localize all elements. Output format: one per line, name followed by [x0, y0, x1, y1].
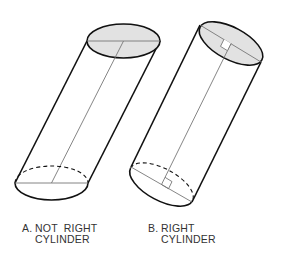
label-b-line2: CYLINDER — [148, 234, 216, 245]
cylinder-a — [15, 24, 160, 200]
label-b: B.RIGHT CYLINDER — [148, 223, 216, 245]
label-b-letter: B. — [148, 223, 161, 234]
cylinder-b-bottom-visible-edge — [123, 168, 192, 215]
label-a: A.NOT RIGHT CYLINDER — [22, 223, 97, 245]
label-a-letter: A. — [22, 223, 35, 234]
label-a-line2: CYLINDER — [22, 234, 97, 245]
cylinder-a-bottom-hidden-edge — [15, 166, 88, 183]
cylinder-a-axis — [52, 41, 124, 183]
cylinder-b-axis — [162, 44, 232, 185]
cylinder-a-bottom-visible-edge — [15, 183, 88, 200]
cylinders-diagram — [0, 0, 282, 256]
